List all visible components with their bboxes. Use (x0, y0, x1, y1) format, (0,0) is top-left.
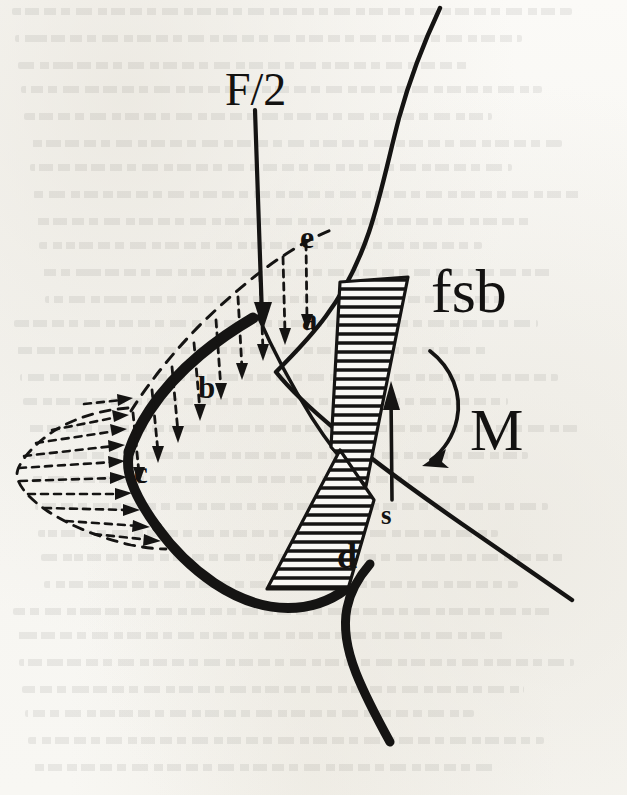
engineering-figure: F/2 e a b c d s fsb M (0, 0, 627, 795)
label-point-d: d (337, 536, 357, 576)
label-point-c: c (134, 455, 148, 490)
shear-arrow (383, 381, 400, 500)
label-moment: M (470, 397, 523, 463)
label-point-e: e (300, 219, 314, 255)
moment-arc-arrow (422, 351, 458, 468)
figure-page: F/2 e a b c d s fsb M (0, 0, 627, 795)
label-point-a: a (302, 302, 318, 337)
applied-force-arrow (254, 110, 272, 330)
label-force-text: F/2 (225, 64, 286, 115)
label-applied-force: F/2 (225, 64, 286, 115)
label-point-b: b (198, 370, 215, 405)
trailing-tail-curve (345, 564, 390, 742)
label-section-fsb: fsb (431, 257, 507, 325)
label-shear: s (381, 500, 392, 530)
